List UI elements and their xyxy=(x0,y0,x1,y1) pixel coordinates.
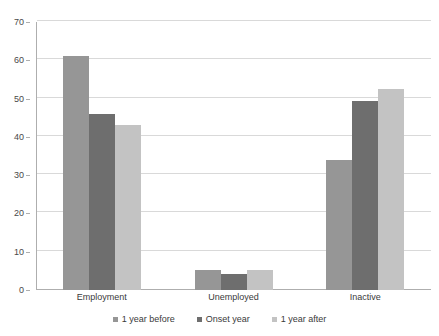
legend-item[interactable]: Onset year xyxy=(197,314,250,324)
bar xyxy=(89,114,115,290)
bar-group-employment xyxy=(63,22,141,290)
bar xyxy=(326,160,352,290)
legend-item[interactable]: 1 year before xyxy=(113,314,175,324)
bar xyxy=(247,270,273,290)
y-tick-mark xyxy=(26,213,30,214)
y-tick-label: 50 xyxy=(14,94,24,103)
y-tick-mark xyxy=(26,22,30,23)
x-tick-label: Unemployed xyxy=(208,292,259,303)
y-tick-label: 20 xyxy=(14,209,24,218)
y-tick-mark xyxy=(26,290,30,291)
bar-chart: 010203040506070 EmploymentUnemployedInac… xyxy=(0,0,439,336)
bar xyxy=(195,270,221,290)
bar-group-inactive xyxy=(326,22,404,290)
legend-label: 1 year before xyxy=(122,314,175,324)
legend-swatch-icon xyxy=(197,317,202,322)
y-tick-label: 10 xyxy=(14,247,24,256)
y-axis: 010203040506070 xyxy=(0,22,30,290)
bar xyxy=(221,274,247,290)
y-tick-label: 60 xyxy=(14,56,24,65)
legend-label: 1 year after xyxy=(281,314,327,324)
bar xyxy=(115,125,141,290)
y-tick-mark xyxy=(26,60,30,61)
legend-swatch-icon xyxy=(272,317,277,322)
chart-legend: 1 year beforeOnset year1 year after xyxy=(0,314,439,324)
legend-item[interactable]: 1 year after xyxy=(272,314,327,324)
y-tick-label: 0 xyxy=(19,286,24,295)
gridline xyxy=(37,20,431,21)
x-tick-label: Inactive xyxy=(350,292,381,303)
bar xyxy=(63,56,89,290)
y-tick-mark xyxy=(26,252,30,253)
legend-swatch-icon xyxy=(113,317,118,322)
y-tick-label: 70 xyxy=(14,18,24,27)
y-tick-label: 30 xyxy=(14,171,24,180)
y-tick-mark xyxy=(26,137,30,138)
bars-layer xyxy=(36,22,431,290)
legend-label: Onset year xyxy=(206,314,250,324)
bar xyxy=(378,89,404,290)
x-tick-label: Employment xyxy=(77,292,127,303)
bar-group-unemployed xyxy=(195,22,273,290)
y-tick-mark xyxy=(26,99,30,100)
y-tick-label: 40 xyxy=(14,132,24,141)
y-tick-mark xyxy=(26,175,30,176)
bar xyxy=(352,101,378,291)
x-axis: EmploymentUnemployedInactive xyxy=(36,292,431,308)
